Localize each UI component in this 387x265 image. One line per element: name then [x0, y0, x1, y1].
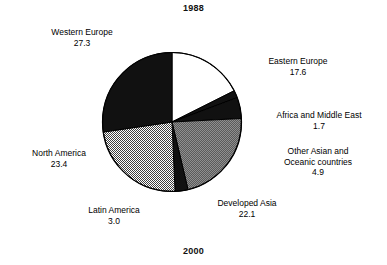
slice-label-value: 27.3	[30, 38, 134, 49]
slice-label-value: 23.4	[8, 159, 110, 170]
pie-chart-figure: 1988 Western Europe 27.3 Eastern Europe …	[0, 0, 387, 265]
slice-label-value: 22.1	[195, 209, 299, 220]
slice-label-value: 3.0	[63, 216, 165, 227]
slice-label-latin-america: Latin America 3.0	[63, 205, 165, 226]
slice-label-name: Latin America	[63, 205, 165, 216]
slice-label-name-line1: Other Asian and	[256, 146, 380, 157]
slice-label-western-europe: Western Europe 27.3	[30, 27, 134, 48]
slice-label-developed-asia: Developed Asia 22.1	[195, 198, 299, 219]
pie-slice	[103, 122, 175, 192]
slice-label-value: 17.6	[243, 67, 353, 78]
slice-label-name-line2: Oceanic countries	[256, 157, 380, 168]
slice-label-value: 4.9	[256, 167, 380, 178]
slice-label-name: Eastern Europe	[243, 56, 353, 67]
slice-label-name: North America	[8, 148, 110, 159]
chart-title-bottom: 2000	[0, 246, 387, 256]
slice-label-africa-and-middle-east: Africa and Middle East 1.7	[256, 110, 382, 131]
slice-label-name: Western Europe	[30, 27, 134, 38]
slice-label-north-america: North America 23.4	[8, 148, 110, 169]
slice-label-name: Africa and Middle East	[256, 110, 382, 121]
slice-label-other-asian-and-oceanic-countries: Other Asian and Oceanic countries 4.9	[256, 146, 380, 178]
slice-label-name: Developed Asia	[195, 198, 299, 209]
slice-label-value: 1.7	[256, 121, 382, 132]
pie-slice	[103, 53, 173, 133]
slice-label-eastern-europe: Eastern Europe 17.6	[243, 56, 353, 77]
